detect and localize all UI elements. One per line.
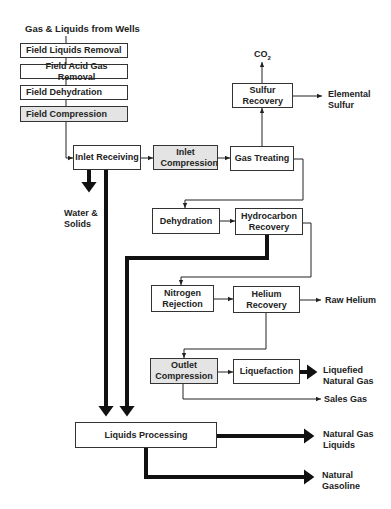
nitrogen-rejection-box[interactable]: Nitrogen Rejection [151,285,214,312]
liquefaction-label: Liquefaction [240,366,294,377]
field-acid-gas-removal-label: Field Acid Gas Removal [26,61,127,83]
field-acid-gas-removal-box[interactable]: Field Acid Gas Removal [20,64,128,79]
ngl-label: Natural Gas Liquids [323,429,383,451]
sulfur-recovery-box[interactable]: Sulfur Recovery [232,83,293,108]
inlet-compression-label: Inlet Compression [161,147,211,169]
sales-gas-label: Sales Gas [324,394,367,405]
hydrocarbon-recovery-label: Hydrocarbon Recovery [239,211,299,233]
co2-label: CO2 [254,49,271,64]
raw-helium-label: Raw Helium [325,295,376,306]
natural-gasoline-label: Natural Gasoline [322,470,372,492]
inlet-compression-box[interactable]: Inlet Compression [153,145,218,170]
helium-recovery-label: Helium Recovery [244,289,289,311]
helium-recovery-box[interactable]: Helium Recovery [233,286,300,313]
elemental-sulfur-label: Elemental Sulfur [328,89,383,111]
hydrocarbon-recovery-box[interactable]: Hydrocarbon Recovery [235,208,303,235]
field-compression-label: Field Compression [26,109,107,120]
wells-input-label: Gas & Liquids from Wells [25,23,140,34]
outlet-compression-box[interactable]: Outlet Compression [150,358,218,384]
dehydration-label: Dehydration [160,216,213,227]
inlet-receiving-box[interactable]: Inlet Receiving [73,145,141,170]
co2-subscript: 2 [268,55,271,61]
lng-label: Liquefied Natural Gas [323,365,385,387]
nitrogen-rejection-label: Nitrogen Rejection [158,288,208,310]
field-liquids-removal-label: Field Liquids Removal [26,45,122,56]
dehydration-box[interactable]: Dehydration [152,208,220,234]
liquids-processing-label: Liquids Processing [104,430,187,441]
field-liquids-removal-box[interactable]: Field Liquids Removal [20,43,128,58]
inlet-receiving-label: Inlet Receiving [75,152,139,163]
gas-treating-box[interactable]: Gas Treating [230,146,294,171]
liquefaction-box[interactable]: Liquefaction [233,359,300,384]
co2-text: CO [254,49,268,59]
outlet-compression-label: Outlet Compression [154,360,214,382]
gas-treating-label: Gas Treating [235,153,290,164]
field-dehydration-box[interactable]: Field Dehydration [20,85,128,100]
water-solids-label: Water & Solids [64,208,104,230]
liquids-processing-box[interactable]: Liquids Processing [75,422,217,448]
field-compression-box[interactable]: Field Compression [20,106,128,122]
sulfur-recovery-label: Sulfur Recovery [243,85,283,107]
field-dehydration-label: Field Dehydration [26,87,102,98]
